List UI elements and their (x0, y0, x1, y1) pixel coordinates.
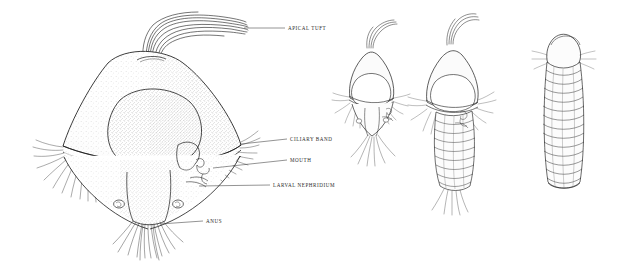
label-apical-tuft: APICAL TUFT (288, 26, 326, 31)
worm-trunk-segments (543, 62, 584, 188)
label-larval-nephridium: LARVAL NEPHRIDIUM (273, 183, 335, 188)
label-anus: ANUS (206, 219, 222, 224)
label-mouth: MOUTH (290, 158, 311, 163)
label-ciliary-band: CILIARY BAND (290, 137, 333, 142)
trunk-segments (434, 111, 475, 191)
illustration-plate: APICAL TUFT CILIARY BAND MOUTH LARVAL NE… (0, 0, 635, 266)
larval-development-illustration (0, 0, 635, 266)
